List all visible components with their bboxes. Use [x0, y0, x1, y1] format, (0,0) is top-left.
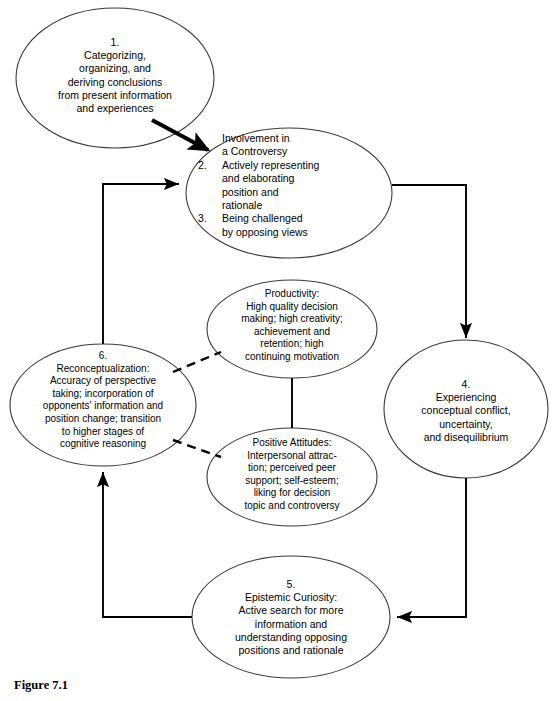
node-2-item-2: 2. Actively representing and elaborating…	[198, 159, 378, 213]
node-2-item-3-number: 3.	[198, 212, 222, 225]
node-2-header-line-2: a Controversy	[222, 145, 378, 158]
connector-node2-to-node4	[392, 185, 466, 338]
node-5-ellipse	[192, 556, 390, 678]
node-6-ellipse	[10, 344, 196, 466]
node-4-ellipse	[384, 340, 548, 478]
node-2-item-2-text: Actively representing and elaborating po…	[222, 159, 378, 213]
connector-node6-to-node2	[103, 184, 179, 344]
node-2-header-line-1: Involvement in	[222, 132, 378, 145]
connector-node4-to-node5	[397, 478, 466, 617]
figure-page: 1. Categorizing, organizing, and derivin…	[0, 0, 559, 701]
node-2-item-3: 3. Being challenged by opposing views	[198, 212, 378, 239]
connector-node5-to-node6	[103, 472, 192, 617]
figure-caption: Figure 7.1	[14, 678, 68, 693]
node-2-item-2-number: 2.	[198, 159, 222, 172]
node-1-ellipse	[16, 8, 214, 148]
diagram-canvas	[0, 0, 559, 701]
connector-node6-to-productivity	[173, 352, 221, 372]
positive-attitudes-ellipse	[207, 428, 377, 526]
node-2-item-3-text: Being challenged by opposing views	[222, 212, 378, 239]
productivity-ellipse	[207, 280, 377, 378]
connector-node6-to-positive-attitudes	[173, 440, 221, 457]
node-2-label: Involvement in a Controversy 2. Actively…	[198, 132, 378, 239]
